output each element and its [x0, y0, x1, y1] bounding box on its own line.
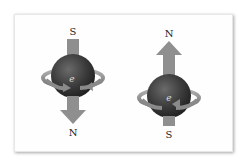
right-electron: N e S	[139, 28, 199, 140]
arrow-up-icon	[156, 41, 182, 55]
left-top-pole-label: S	[70, 26, 77, 37]
arrow-down-icon	[60, 110, 86, 124]
electron-spin-diagram: S e N N e S	[0, 0, 243, 163]
right-bottom-pole-label: S	[166, 129, 173, 140]
electron-label: e	[166, 93, 171, 103]
left-bottom-pole-label: N	[69, 127, 78, 138]
left-electron: S e N	[43, 26, 103, 138]
electron-label: e	[69, 74, 74, 84]
magnetic-arrow-shaft-bottom	[67, 96, 79, 110]
magnetic-arrow-shaft-bottom	[163, 116, 175, 126]
right-top-pole-label: N	[165, 28, 174, 39]
